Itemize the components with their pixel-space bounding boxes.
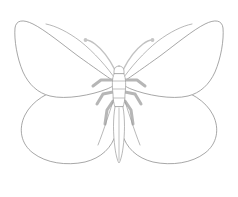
antennae-group (84, 38, 155, 70)
head (114, 66, 124, 74)
body-group (112, 66, 125, 163)
butterfly-illustration-canvas: Butterfly line drawing (0, 0, 238, 197)
butterfly-drawing (0, 0, 238, 197)
antenna-left-tip-icon (84, 38, 88, 42)
antenna-right-tip-icon (151, 38, 155, 42)
thorax (112, 74, 125, 107)
